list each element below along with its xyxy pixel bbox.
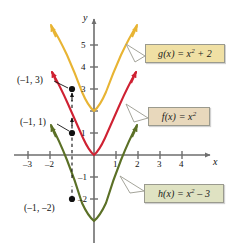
leader-callout-h xyxy=(120,176,144,193)
callout-g-equation: g(x) = x2 + 2 xyxy=(145,44,225,63)
point-label-neg1-neg2: (–1, –2) xyxy=(24,203,55,213)
x-tick-label--3: –3 xyxy=(23,159,32,169)
point-neg1-neg2[interactable] xyxy=(69,196,75,202)
y-tick-label--1: –1 xyxy=(78,172,87,182)
callout-h-equation: h(x) = x2 – 3 xyxy=(144,184,224,203)
callout-f-equation: f(x) = x2 xyxy=(148,107,210,126)
point-neg1-1[interactable] xyxy=(69,130,75,136)
leader-callout-g xyxy=(126,44,145,62)
x-tick-label-1: 1 xyxy=(113,159,118,169)
callout-h-text: h(x) = x2 – 3 xyxy=(158,188,210,199)
callout-g-text: g(x) = x2 + 2 xyxy=(158,48,212,59)
parabola-transformation-figure: –3 –2 1 2 3 4 5 4 3 1 –1 –2 x y (–1, 3) … xyxy=(0,0,226,247)
x-tick-label-3: 3 xyxy=(157,159,162,169)
callout-f-text: f(x) = x2 xyxy=(162,111,196,122)
y-axis-label: y xyxy=(83,12,87,23)
leader-callout-f xyxy=(126,104,148,122)
x-axis-label: x xyxy=(213,156,217,167)
y-tick-label-4: 4 xyxy=(81,62,86,72)
y-tick-label--2: –2 xyxy=(78,194,87,204)
x-tick-label-2: 2 xyxy=(135,159,140,169)
y-tick-label-3: 3 xyxy=(81,84,86,94)
y-tick-label-5: 5 xyxy=(81,40,86,50)
point-neg1-3[interactable] xyxy=(69,86,75,92)
x-tick-label--2: –2 xyxy=(45,159,54,169)
leader-point-neg1-1 xyxy=(57,124,69,131)
y-tick-label-1: 1 xyxy=(81,128,86,138)
point-label-neg1-1: (–1, 1) xyxy=(20,117,46,127)
x-tick-label-4: 4 xyxy=(179,159,184,169)
point-label-neg1-3: (–1, 3) xyxy=(17,75,43,85)
